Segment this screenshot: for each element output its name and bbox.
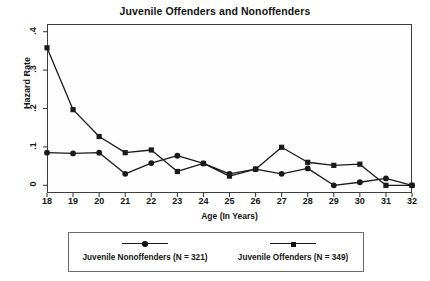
x-tick-label: 19	[61, 196, 85, 206]
x-tick-label: 21	[113, 196, 137, 206]
x-tick-label: 23	[165, 196, 189, 206]
y-tick-label: 0	[28, 173, 38, 195]
x-tick-label: 22	[139, 196, 163, 206]
y-tick-label: .1	[28, 135, 38, 157]
legend-label-nonoffenders: Juvenile Nonoffenders (N = 321)	[69, 253, 221, 262]
legend-label-offenders: Juvenile Offenders (N = 349)	[221, 253, 365, 262]
x-tick-label: 28	[296, 196, 320, 206]
chart-title: Juvenile Offenders and Nonoffenders	[0, 5, 430, 17]
x-tick-label: 25	[218, 196, 242, 206]
legend-square-marker-icon	[291, 242, 296, 247]
y-tick-label: .2	[28, 97, 38, 119]
x-tick-label: 26	[244, 196, 268, 206]
y-tick-label: .3	[28, 58, 38, 80]
x-tick-label: 30	[348, 196, 372, 206]
chart-figure: Juvenile Offenders and Nonoffenders Haza…	[0, 0, 430, 281]
legend-circle-marker-icon	[142, 241, 148, 247]
chart-legend: Juvenile Nonoffenders (N = 321) Juvenile…	[68, 232, 364, 272]
x-tick-label: 31	[374, 196, 398, 206]
x-tick-label: 27	[270, 196, 294, 206]
legend-entry-nonoffenders: Juvenile Nonoffenders (N = 321)	[69, 233, 221, 273]
x-tick-label: 20	[87, 196, 111, 206]
legend-entry-offenders: Juvenile Offenders (N = 349)	[221, 233, 365, 273]
x-tick-label: 32	[400, 196, 424, 206]
x-axis-label: Age (In Years)	[47, 211, 412, 221]
y-tick-label: .4	[28, 20, 38, 42]
legend-sample-nonoffenders	[122, 243, 168, 245]
x-tick-label: 29	[322, 196, 346, 206]
x-tick-label: 24	[191, 196, 215, 206]
x-tick-label: 18	[35, 196, 59, 206]
legend-sample-offenders	[270, 243, 316, 245]
plot-area	[47, 24, 412, 193]
